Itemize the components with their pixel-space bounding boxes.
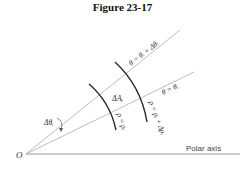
- polar-axis-label: Polar axis: [186, 144, 221, 153]
- arc-outer-label: ρ = ρᵢ + Δρᵢ: [147, 99, 168, 136]
- arrowhead-icon: [59, 128, 63, 132]
- origin-label: O: [16, 150, 23, 160]
- area-label: ΔAᵢ: [111, 94, 123, 103]
- polar-area-diagram: O Polar axis ΔAᵢ Δθᵢ θ = θᵢ θ = θᵢ + Δθᵢ…: [0, 0, 245, 170]
- ray-outer-label: θ = θᵢ + Δθᵢ: [127, 39, 160, 68]
- angle-label: Δθᵢ: [43, 118, 53, 127]
- arc-inner-label: ρ = ρᵢ: [115, 111, 129, 131]
- arc-rho-i: [89, 84, 116, 130]
- ray-theta-i-plus-dtheta: [26, 30, 180, 154]
- ray-inner-label: θ = θᵢ: [160, 81, 180, 96]
